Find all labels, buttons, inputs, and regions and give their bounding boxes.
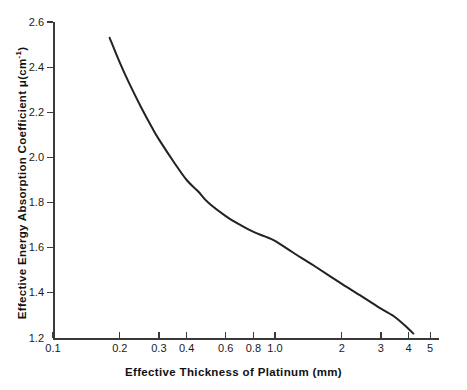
y-axis-title-exponent: -1 bbox=[14, 51, 23, 59]
y-axis-title-symbol: μ(cm bbox=[16, 58, 28, 87]
y-axis-title-main: Effective Energy Absorption Coefficient bbox=[16, 87, 28, 319]
y-axis-title: Effective Energy Absorption Coefficient … bbox=[14, 23, 28, 343]
chart-figure: 0.10.20.30.40.60.81.02345 1.21.41.61.82.… bbox=[0, 0, 467, 390]
curve-plot-area bbox=[0, 0, 467, 390]
y-axis-title-tail: ) bbox=[16, 47, 28, 51]
x-axis-title: Effective Thickness of Platinum (mm) bbox=[0, 366, 467, 378]
data-curve-line bbox=[110, 38, 414, 334]
